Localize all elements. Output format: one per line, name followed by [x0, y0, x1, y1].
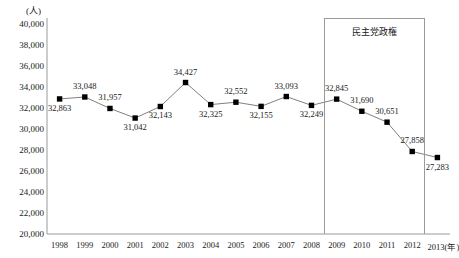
x-tick-label: 2002	[152, 240, 169, 250]
data-point-label: 32,845	[325, 83, 348, 93]
data-point-label: 32,155	[249, 110, 272, 120]
x-tick-label: 2011	[379, 240, 396, 250]
data-point-label: 27,283	[426, 162, 449, 172]
x-tick-label: 2005	[227, 240, 244, 250]
data-point-marker[interactable]	[233, 100, 238, 105]
data-point-marker[interactable]	[82, 94, 87, 99]
x-tick-label: 2012	[404, 240, 421, 250]
data-point-label: 33,048	[73, 81, 96, 91]
x-tick-label: 2006	[253, 240, 270, 250]
data-point-marker[interactable]	[309, 103, 314, 108]
x-tick-label: 2013(年)	[428, 240, 459, 252]
data-point-marker[interactable]	[57, 96, 62, 101]
data-point-marker[interactable]	[107, 106, 112, 111]
x-tick-label: 1999	[76, 240, 93, 250]
data-point-marker[interactable]	[208, 102, 213, 107]
data-point-label: 32,249	[300, 109, 323, 119]
x-tick-label: 2007	[278, 240, 295, 250]
x-tick-label: 1998	[51, 240, 68, 250]
data-point-marker[interactable]	[183, 80, 188, 85]
x-tick-label: 2003	[177, 240, 194, 250]
data-point-label: 32,143	[149, 110, 172, 120]
data-point-marker[interactable]	[158, 104, 163, 109]
data-point-label: 31,042	[123, 122, 146, 132]
democratic-party-government-annotation-label: 民主党政権	[352, 25, 397, 38]
x-tick-label: 2008	[303, 240, 320, 250]
data-point-label: 30,651	[375, 106, 398, 116]
data-point-label: 34,427	[174, 67, 197, 77]
x-tick-label: 2010	[353, 240, 370, 250]
data-point-label: 27,858	[401, 135, 424, 145]
data-point-label: 32,863	[48, 103, 71, 113]
data-point-label: 31,690	[350, 95, 373, 105]
data-point-marker[interactable]	[284, 94, 289, 99]
data-point-label: 31,957	[98, 92, 121, 102]
x-tick-label: 2009	[328, 240, 345, 250]
data-point-label: 32,325	[199, 109, 222, 119]
x-tick-label: 2000	[101, 240, 118, 250]
data-point-marker[interactable]	[132, 115, 137, 120]
data-point-marker[interactable]	[258, 104, 263, 109]
x-tick-label: 2004	[202, 240, 219, 250]
data-point-label: 33,093	[275, 81, 298, 91]
data-point-marker[interactable]	[435, 155, 440, 160]
data-point-label: 32,552	[224, 86, 247, 96]
x-tick-label: 2001	[127, 240, 144, 250]
democratic-party-government-annotation-box	[324, 18, 425, 234]
